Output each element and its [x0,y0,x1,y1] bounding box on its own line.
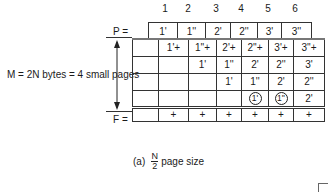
grid-cell [189,73,217,90]
grid-cell [133,90,159,107]
grid-cell: 1'' [217,56,242,73]
grid-cell: 3''+ [294,39,325,56]
grid-cell: 2'' [269,56,294,73]
p-cell: 1'' [178,23,206,39]
grid-cell [159,56,189,73]
grid-cell: 2'+ [217,39,242,56]
p-cell: 2' [206,23,231,39]
fraction-numerator: N [151,152,158,161]
grid-cell: 1''+ [189,39,217,56]
circled-value: 1' [249,92,262,105]
fraction-denominator: 2 [152,162,157,171]
f-underline [106,111,132,112]
grid-cell: 2' [269,73,294,90]
grid-cell: 2' [242,56,269,73]
f-cell: + [217,107,242,121]
p-cell: 3' [258,23,282,39]
figure-caption: (a) N 2 page size [133,152,204,171]
grid-cell: 2''+ [242,39,269,56]
column-number: 3 [208,3,224,14]
grid-row: 1'+ 1''+ 2'+ 2''+ 3'+ 3''+ [133,39,325,56]
grid-cell [133,73,159,90]
column-number: 6 [287,3,303,14]
grid-cell: 1'+ [159,39,189,56]
grid-cell: 3' [294,56,325,73]
caption-prefix: (a) [133,156,145,167]
grid-cell-circled: 1' [242,90,269,107]
caption-suffix: page size [161,156,204,167]
grid-row: 1' 1'' 2' 2'' 3' [133,56,325,73]
p-cell: 3'' [282,23,311,39]
grid-cell [159,90,189,107]
page-corner-mark [318,183,328,192]
grid-cell [159,73,189,90]
grid-cell: 2' [294,90,325,107]
grid-cell [189,90,217,107]
f-cell [133,107,159,121]
grid-row: 1' 1'' 2' 2'' [133,73,325,90]
grid-cell: 2'' [294,73,325,90]
grid-cell [133,39,159,56]
grid-cell [217,90,242,107]
grid-cell-circled: 1'' [269,90,294,107]
column-number: 1 [157,3,173,14]
p-cell: 2'' [231,23,258,39]
memory-grid: 1'+ 1''+ 2'+ 2''+ 3'+ 3''+ 1' 1'' 2' 2''… [132,38,325,122]
f-cell: + [242,107,269,121]
f-row: + + + + + + [133,107,325,121]
grid-row: 1' 1'' 2' [133,90,325,107]
grid-cell: 1'' [242,73,269,90]
column-number: 4 [233,3,249,14]
column-number: 2 [180,3,196,14]
f-cell: + [269,107,294,121]
grid-cell: 1' [189,56,217,73]
caption-fraction: N 2 [151,152,158,171]
column-number: 5 [260,3,276,14]
grid-cell: 1' [217,73,242,90]
p-cell: 1' [149,23,178,39]
p-row: 1' 1'' 2' 2'' 3' 3'' [148,22,312,39]
grid-cell [133,56,159,73]
f-cell: + [189,107,217,121]
f-label: F = [113,114,128,125]
circled-value: 1'' [275,92,288,105]
f-cell: + [159,107,189,121]
grid-cell: 3'+ [269,39,294,56]
p-label: P = [113,26,128,37]
f-cell: + [294,107,325,121]
memory-label: M = 2N bytes = 4 small pages [7,69,139,80]
